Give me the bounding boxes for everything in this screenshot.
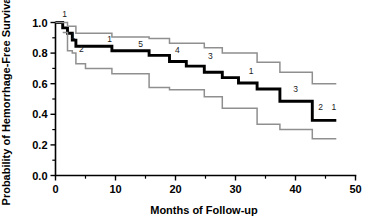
x-tick-label: 30 (229, 183, 241, 195)
x-tick-label: 20 (169, 183, 181, 195)
censor-count-label: 3 (293, 84, 298, 94)
y-tick-label: 0.6 (32, 78, 47, 90)
x-tick-label: 50 (349, 183, 361, 195)
survival-plot: 0.00.20.40.60.81.0 01020304050 112154313… (0, 0, 374, 222)
y-tick-label: 0.4 (32, 108, 48, 120)
censor-count-label: 1 (62, 9, 67, 19)
censor-count-label: 1 (332, 102, 337, 112)
y-tick-label: 0.2 (32, 139, 47, 151)
censor-count-label: 1 (249, 66, 254, 76)
x-tick-label: 40 (289, 183, 301, 195)
censor-count-label: 1 (71, 31, 76, 41)
censor-count-label: 2 (79, 44, 84, 54)
x-tick-label: 10 (109, 183, 121, 195)
y-tick-label: 0.8 (32, 47, 47, 59)
x-axis-title: Months of Follow-up (150, 204, 258, 216)
x-tick-label: 0 (52, 183, 58, 195)
y-axis-title: Probability of Hemorrhage-Free Survival (0, 0, 12, 205)
y-tick-label: 0.0 (32, 170, 47, 182)
censor-count-label: 5 (138, 39, 143, 49)
censor-count-label: 4 (175, 45, 180, 55)
censor-count-label: 3 (208, 51, 213, 61)
y-tick-label: 1.0 (32, 17, 47, 29)
censor-count-label: 2 (318, 102, 323, 112)
censor-count-label: 1 (107, 34, 112, 44)
kaplan-meier-figure: 0.00.20.40.60.81.0 01020304050 112154313… (0, 0, 374, 222)
